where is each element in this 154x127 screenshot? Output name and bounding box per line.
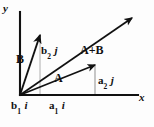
- vector-arrows: [20, 18, 132, 95]
- component-b1i-subscript: 1: [17, 107, 22, 116]
- vector-b-label: B: [16, 53, 24, 65]
- component-a2j-unit: j: [109, 74, 114, 86]
- vector-addition-figure: y x A B A+B b2j a2j b1i a1i: [0, 0, 154, 127]
- component-a1i-subscript: 1: [55, 107, 60, 116]
- component-a2j-subscript: 2: [104, 82, 109, 91]
- component-a2j-base: a: [98, 74, 104, 86]
- component-b1i-label: b1i: [11, 100, 27, 114]
- component-a1i-label: a1i: [49, 100, 65, 114]
- vector-a-label: A: [54, 72, 63, 84]
- component-b2j-subscript: 2: [47, 52, 52, 61]
- x-axis-label: x: [139, 92, 145, 103]
- component-a2j-label: a2j: [98, 75, 114, 89]
- y-axis-label: y: [3, 3, 8, 14]
- vector-a-plus-b-arrow: [20, 18, 132, 95]
- component-a1i-base: a: [49, 99, 55, 111]
- component-a1i-unit: i: [60, 99, 65, 111]
- component-b2j-label: b2j: [41, 45, 57, 59]
- vector-a-plus-b-label: A+B: [80, 44, 104, 56]
- component-b2j-unit: j: [52, 44, 57, 56]
- component-b1i-unit: i: [22, 99, 27, 111]
